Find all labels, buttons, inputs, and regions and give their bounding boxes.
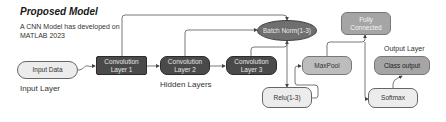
conv3-line1: Convolution — [234, 58, 268, 66]
node-convolution-layer-1: Convolution Layer 1 — [96, 56, 147, 75]
fc-line1: Fully — [359, 16, 373, 24]
node-class-output: Class output — [374, 56, 430, 75]
node-input-data-label: Input Data — [33, 66, 63, 74]
conv2-line2: Layer 2 — [174, 66, 196, 74]
fc-line2: Connected — [350, 24, 381, 32]
node-maxpool-label: MaxPool — [314, 62, 339, 70]
node-convolution-layer-3: Convolution Layer 3 — [226, 56, 277, 75]
label-hidden-layers: Hidden Layers — [160, 80, 212, 89]
conv3-line2: Layer 3 — [241, 66, 263, 74]
node-input-data: Input Data — [17, 61, 78, 79]
node-relu: Relu(1-3) — [262, 87, 312, 108]
subtitle-line-1: A CNN Model has developed on — [20, 22, 150, 31]
subtitle-line-2: MATLAB 2023 — [20, 31, 150, 40]
diagram-subtitle: A CNN Model has developed on MATLAB 2023 — [20, 22, 150, 40]
node-fully-connected: Fully Connected — [341, 12, 391, 35]
node-softmax: Softmax — [368, 88, 418, 108]
diagram-title: Proposed Model — [20, 6, 98, 17]
conv1-line1: Convolution — [104, 58, 138, 66]
node-class-output-label: Class output — [384, 62, 420, 70]
node-softmax-label: Softmax — [381, 94, 405, 102]
conv1-line2: Layer 1 — [111, 66, 133, 74]
node-convolution-layer-2: Convolution Layer 2 — [160, 56, 210, 75]
node-maxpool: MaxPool — [302, 56, 352, 75]
node-relu-label: Relu(1-3) — [273, 94, 300, 102]
label-input-layer: Input Layer — [20, 84, 60, 93]
label-output-layer: Output Layer — [384, 45, 424, 52]
conv2-line1: Convolution — [168, 58, 202, 66]
node-batch-norm-label: Batch Norm(1-3) — [263, 27, 311, 35]
node-batch-norm: Batch Norm(1-3) — [257, 20, 317, 41]
